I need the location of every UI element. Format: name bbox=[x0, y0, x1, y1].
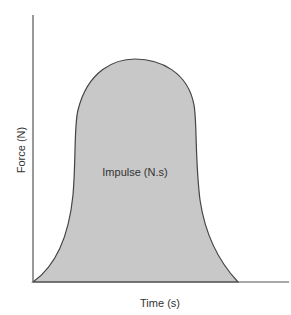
force-time-diagram bbox=[0, 0, 291, 315]
impulse-area-label: Impulse (N.s) bbox=[102, 166, 167, 178]
x-axis-label: Time (s) bbox=[140, 297, 180, 309]
y-axis-label: Force (N) bbox=[15, 127, 27, 173]
